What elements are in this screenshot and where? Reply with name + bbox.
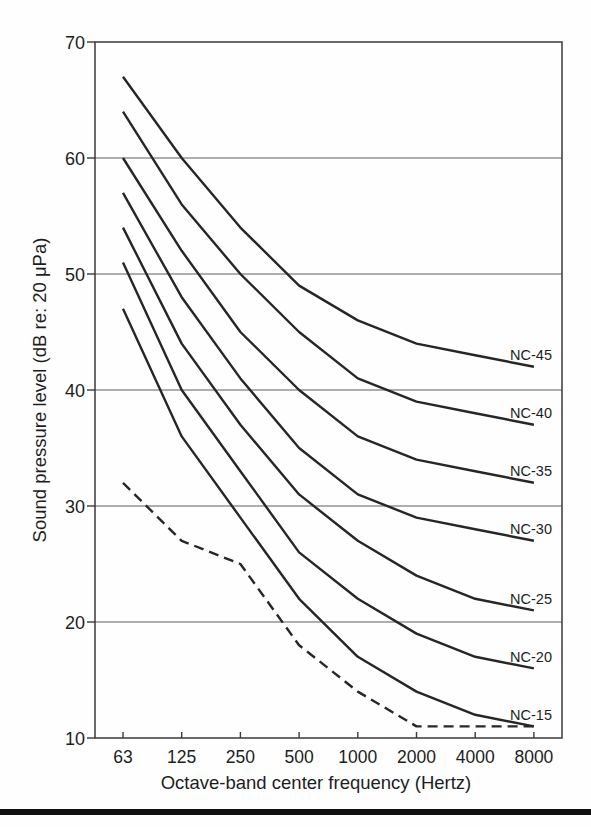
nc-curves-chart: 7060504030201063125250500100020004000800… (0, 0, 591, 827)
x-tick-label-4000: 4000 (456, 747, 495, 767)
x-tick-label-63: 63 (113, 747, 132, 767)
y-tick-label-10: 10 (65, 729, 85, 749)
y-tick-label-60: 60 (65, 149, 85, 169)
curve-label-NC-40: NC-40 (510, 405, 552, 421)
y-tick-label-30: 30 (65, 497, 85, 517)
x-tick-label-2000: 2000 (397, 747, 436, 767)
curve-label-NC-35: NC-35 (510, 463, 552, 479)
y-tick-label-70: 70 (65, 33, 85, 53)
y-tick-label-50: 50 (65, 265, 85, 285)
curve-label-NC-15: NC-15 (510, 707, 552, 723)
x-tick-label-1000: 1000 (338, 747, 377, 767)
plot-area: 7060504030201063125250500100020004000800… (65, 33, 562, 768)
threshold-curve (123, 483, 534, 727)
curve-NC-30 (123, 193, 534, 541)
page-bottom-rule (0, 809, 591, 815)
x-axis-title: Octave-band center frequency (Hertz) (161, 772, 472, 793)
curve-NC-20 (123, 262, 534, 668)
x-tick-label-125: 125 (167, 747, 196, 767)
x-tick-label-8000: 8000 (514, 747, 553, 767)
curve-label-NC-20: NC-20 (510, 649, 552, 665)
y-axis-title: Sound pressure level (dB re: 20 μPa) (29, 238, 50, 543)
y-tick-label-20: 20 (65, 613, 85, 633)
curve-NC-45 (123, 77, 534, 367)
curve-NC-25 (123, 228, 534, 611)
curve-label-NC-30: NC-30 (510, 521, 552, 537)
y-tick-label-40: 40 (65, 381, 85, 401)
x-tick-label-250: 250 (226, 747, 255, 767)
curve-label-NC-45: NC-45 (510, 347, 552, 363)
curve-NC-40 (123, 112, 534, 425)
figure-page: 7060504030201063125250500100020004000800… (0, 0, 591, 827)
x-tick-label-500: 500 (284, 747, 313, 767)
curve-label-NC-25: NC-25 (510, 591, 552, 607)
